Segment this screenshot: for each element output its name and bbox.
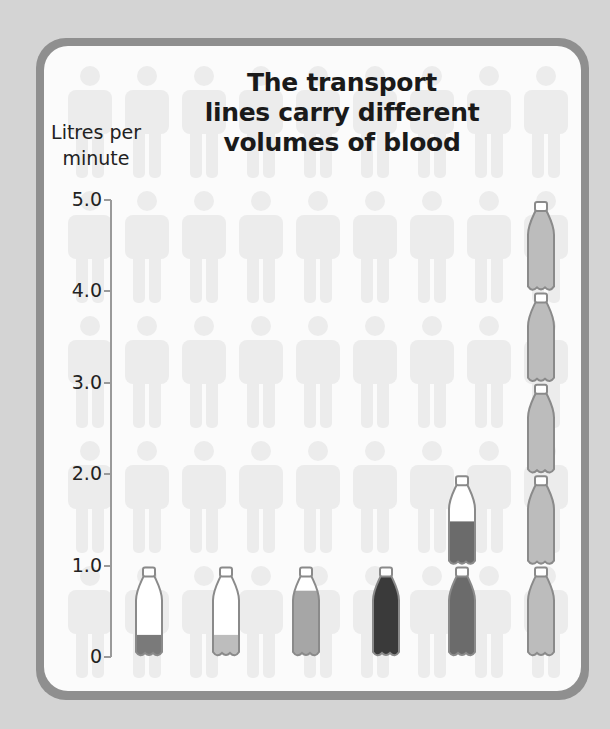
bottle-icon — [525, 476, 557, 569]
bottle-icon — [290, 568, 322, 661]
bottle-icon — [525, 385, 557, 478]
bottle-icon — [525, 293, 557, 386]
bottle-icon — [446, 568, 478, 661]
bottle-icon — [133, 568, 165, 661]
bottle-icon — [525, 568, 557, 661]
bottle-icon — [446, 476, 478, 569]
bottle-icon — [370, 568, 402, 661]
bottle-bars — [0, 0, 610, 729]
bottle-icon — [525, 202, 557, 295]
bottle-icon — [210, 568, 242, 661]
